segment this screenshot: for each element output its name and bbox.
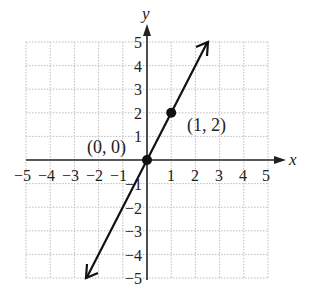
point-origin <box>142 155 152 165</box>
y-axis-label: y <box>140 4 150 23</box>
y-tick: 1 <box>134 128 142 145</box>
point-label-origin: (0, 0) <box>87 137 126 158</box>
x-tick: −2 <box>86 167 103 184</box>
graph: x y −5 −4 −3 −2 −1 1 2 3 4 5 5 4 3 2 1 −… <box>0 0 310 296</box>
y-axis-arrow-icon <box>143 24 151 36</box>
y-tick: −5 <box>125 270 142 287</box>
x-tick: −5 <box>14 167 31 184</box>
x-axis-label: x <box>288 150 297 169</box>
y-tick: −2 <box>125 200 142 217</box>
x-tick: 5 <box>262 167 270 184</box>
x-tick: 4 <box>239 167 247 184</box>
y-tick: 4 <box>134 58 142 75</box>
x-tick: 2 <box>191 167 199 184</box>
x-axis-arrow-icon <box>274 156 286 164</box>
x-tick: −4 <box>38 167 55 184</box>
y-tick: −4 <box>125 247 142 264</box>
x-tick: 3 <box>215 167 223 184</box>
y-tick: −3 <box>125 223 142 240</box>
x-tick: −3 <box>62 167 79 184</box>
point-label-1-2: (1, 2) <box>187 115 226 136</box>
axes <box>26 24 286 280</box>
y-tick: 3 <box>134 81 142 98</box>
y-tick: 2 <box>134 105 142 122</box>
y-tick: 5 <box>134 34 142 51</box>
point-1-2 <box>166 108 176 118</box>
x-tick: 1 <box>167 167 175 184</box>
